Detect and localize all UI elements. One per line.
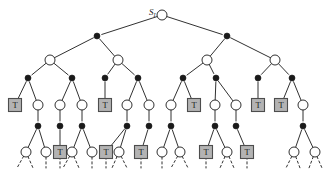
filled-decision-node[interactable] xyxy=(224,33,230,39)
open-decision-node[interactable] xyxy=(45,55,55,65)
tree-continuation-stub xyxy=(121,156,127,168)
open-decision-node[interactable] xyxy=(270,55,280,65)
open-decision-node[interactable] xyxy=(122,100,132,110)
open-decision-node[interactable] xyxy=(87,147,97,157)
tree-edge xyxy=(296,130,302,147)
terminal-node[interactable]: T xyxy=(275,99,288,112)
filled-decision-node[interactable] xyxy=(213,75,219,81)
tree-edge xyxy=(74,130,81,148)
filled-decision-node[interactable] xyxy=(57,123,63,129)
open-decision-node[interactable] xyxy=(298,100,308,110)
tree-edge xyxy=(54,38,93,58)
tree-edge xyxy=(39,130,44,147)
terminal-label: T xyxy=(102,100,108,110)
tree-edge xyxy=(208,130,214,147)
tree-continuation-stub xyxy=(74,157,79,168)
tree-edge xyxy=(187,62,204,75)
open-decision-node[interactable] xyxy=(33,100,43,110)
terminal-node[interactable]: T xyxy=(9,99,22,112)
terminal-node[interactable]: T xyxy=(100,146,113,159)
terminal-node[interactable]: T xyxy=(135,146,148,159)
tree-edge xyxy=(17,82,26,101)
terminal-node[interactable]: T xyxy=(252,99,265,112)
open-decision-node[interactable] xyxy=(77,100,87,110)
filled-decision-node[interactable] xyxy=(79,123,85,129)
open-decision-node[interactable] xyxy=(114,147,124,157)
tree-continuation-stub xyxy=(309,157,313,168)
tree-edge xyxy=(28,130,36,148)
filled-decision-node[interactable] xyxy=(300,123,306,129)
tree-continuation-stub xyxy=(220,157,225,168)
open-decision-node[interactable] xyxy=(202,55,212,65)
tree-edge xyxy=(108,63,116,74)
tree-edge xyxy=(278,63,289,74)
terminal-label: T xyxy=(203,147,209,157)
terminal-label: T xyxy=(244,147,250,157)
terminal-node[interactable]: T xyxy=(188,99,201,112)
filled-decision-node[interactable] xyxy=(168,123,174,129)
terminal-node[interactable]: T xyxy=(99,99,112,112)
root-node-label: SI xyxy=(149,8,156,18)
open-decision-node[interactable] xyxy=(166,100,176,110)
open-decision-node[interactable] xyxy=(113,55,123,65)
terminal-node[interactable]: T xyxy=(200,146,213,159)
filled-decision-node[interactable] xyxy=(233,123,239,129)
tree-svg: TTTTTTTTTT xyxy=(0,0,329,178)
terminal-label: T xyxy=(278,100,284,110)
tree-continuation-stub xyxy=(17,156,24,168)
open-decision-node[interactable] xyxy=(41,147,51,157)
terminal-node[interactable]: T xyxy=(241,146,254,159)
terminal-label: T xyxy=(255,100,261,110)
tree-edge xyxy=(215,82,216,100)
open-decision-node[interactable] xyxy=(157,10,167,20)
filled-decision-node[interactable] xyxy=(289,75,295,81)
filled-decision-node[interactable] xyxy=(255,75,261,81)
tree-edge xyxy=(83,130,90,148)
filled-decision-node[interactable] xyxy=(212,123,218,129)
tree-continuation-stub xyxy=(171,156,178,168)
tree-edge xyxy=(32,63,47,75)
tree-edge xyxy=(218,81,233,101)
tree-continuation-stub xyxy=(28,157,33,168)
open-decision-node[interactable] xyxy=(144,100,154,110)
open-decision-node[interactable] xyxy=(310,147,320,157)
tree-continuation-stub xyxy=(182,156,188,168)
filled-decision-node[interactable] xyxy=(102,75,108,81)
open-decision-node[interactable] xyxy=(55,100,65,110)
filled-decision-node[interactable] xyxy=(146,123,152,129)
nodes-layer: TTTTTTTTTT xyxy=(9,10,321,159)
filled-decision-node[interactable] xyxy=(94,33,100,39)
open-decision-node[interactable] xyxy=(21,147,31,157)
tree-edge xyxy=(185,82,193,101)
tree-edge xyxy=(29,82,36,101)
open-decision-node[interactable] xyxy=(289,147,299,157)
terminal-label: T xyxy=(57,147,63,157)
filled-decision-node[interactable] xyxy=(25,75,31,81)
terminal-label: T xyxy=(103,147,109,157)
tree-edge xyxy=(129,82,137,101)
filled-decision-node[interactable] xyxy=(35,123,41,129)
tree-edge xyxy=(166,16,222,34)
open-decision-node[interactable] xyxy=(157,147,167,157)
tree-edge xyxy=(53,63,68,75)
terminal-node[interactable]: T xyxy=(54,146,67,159)
tree-edge xyxy=(231,38,271,58)
open-decision-node[interactable] xyxy=(210,100,220,110)
open-decision-node[interactable] xyxy=(67,147,77,157)
terminal-label: T xyxy=(138,147,144,157)
filled-decision-node[interactable] xyxy=(135,75,141,81)
open-decision-node[interactable] xyxy=(231,100,241,110)
open-decision-node[interactable] xyxy=(222,147,232,157)
tree-edge xyxy=(142,130,147,147)
filled-decision-node[interactable] xyxy=(180,75,186,81)
tree-edge xyxy=(294,82,302,101)
root-label-subscript: I xyxy=(154,12,156,18)
terminal-label: T xyxy=(12,100,18,110)
filled-decision-node[interactable] xyxy=(69,75,75,81)
tree-edge xyxy=(217,130,225,148)
tree-edge xyxy=(173,82,181,101)
filled-decision-node[interactable] xyxy=(124,123,130,129)
tree-edge xyxy=(102,16,158,34)
tree-edge xyxy=(210,39,224,56)
open-decision-node[interactable] xyxy=(175,147,185,157)
